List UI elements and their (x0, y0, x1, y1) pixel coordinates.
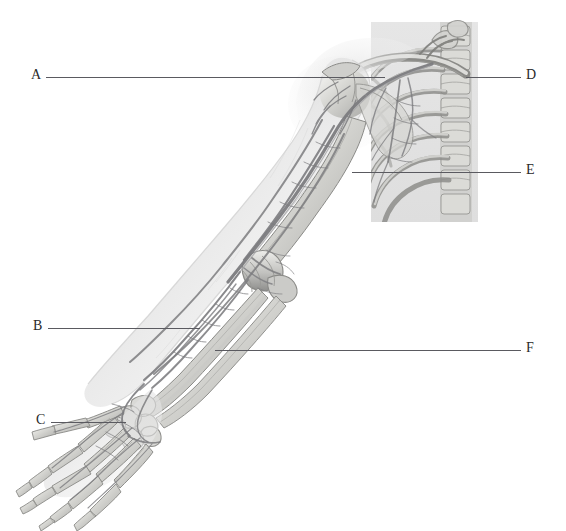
label-f: F (526, 341, 534, 355)
leader-line-e (352, 172, 521, 173)
leader-line-b (48, 328, 200, 329)
leader-line-d (466, 77, 521, 78)
leader-line-f (215, 350, 521, 351)
label-a: A (31, 68, 41, 82)
leader-line-c (51, 422, 126, 423)
leader-line-a (46, 77, 385, 78)
label-c: C (36, 413, 46, 427)
figure-canvas: A B C D E F (0, 0, 566, 531)
label-b: B (33, 319, 43, 333)
label-d: D (526, 68, 536, 82)
label-e: E (526, 163, 535, 177)
upper-limb-illustration (0, 0, 566, 531)
thoracic-vertebrae (440, 22, 472, 222)
